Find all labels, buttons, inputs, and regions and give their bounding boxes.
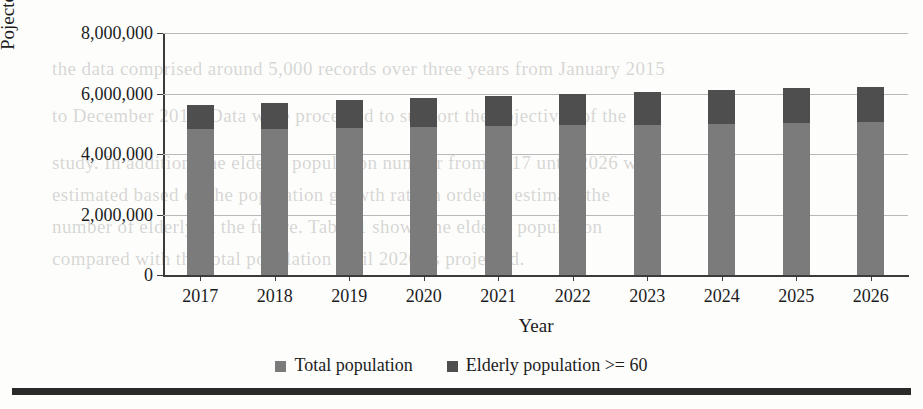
legend-label: Total population (294, 355, 412, 376)
bar-segment-elderly-population[interactable] (261, 103, 288, 129)
bar-slot: 2020 (387, 33, 462, 275)
x-axis-tick-label: 2023 (629, 286, 665, 307)
plot-area: 02,000,0004,000,0006,000,0008,000,000 20… (163, 33, 908, 275)
y-axis-tick-label: 6,000,000 (81, 83, 153, 104)
legend-swatch-icon (447, 361, 458, 372)
bar-segment-total-population[interactable] (783, 123, 810, 275)
bar-slot: 2019 (312, 33, 387, 275)
x-axis-tick-label: 2026 (853, 286, 889, 307)
x-axis-tick (647, 275, 648, 281)
stacked-bar-chart: Pojected population 02,000,0004,000,0006… (0, 0, 923, 409)
bar-segment-elderly-population[interactable] (857, 87, 884, 123)
x-axis-tick (200, 275, 201, 281)
stacked-bar[interactable] (634, 92, 661, 275)
y-axis-tick (157, 275, 163, 276)
x-axis-tick (796, 275, 797, 281)
y-axis-tick-label: 4,000,000 (81, 144, 153, 165)
x-axis-tick (349, 275, 350, 281)
stacked-bar[interactable] (410, 98, 437, 275)
bar-segment-total-population[interactable] (187, 129, 214, 275)
y-axis-tick-label: 8,000,000 (81, 23, 153, 44)
stacked-bar[interactable] (559, 94, 586, 275)
stacked-bar[interactable] (857, 87, 884, 275)
bar-slot: 2018 (238, 33, 313, 275)
bar-group: 2017201820192020202120222023202420252026 (163, 33, 908, 275)
bar-segment-total-population[interactable] (261, 129, 288, 275)
bar-segment-elderly-population[interactable] (634, 92, 661, 125)
bar-segment-total-population[interactable] (485, 126, 512, 275)
x-axis-tick (424, 275, 425, 281)
x-axis-tick-label: 2018 (257, 286, 293, 307)
x-axis-tick (498, 275, 499, 281)
bar-segment-elderly-population[interactable] (485, 96, 512, 126)
stacked-bar[interactable] (187, 105, 214, 275)
y-axis-tick-label: 0 (144, 265, 153, 286)
x-axis-tick-label: 2017 (182, 286, 218, 307)
x-axis-tick-label: 2021 (480, 286, 516, 307)
bar-slot: 2017 (163, 33, 238, 275)
bar-segment-total-population[interactable] (559, 125, 586, 275)
chart-legend: Total populationElderly population >= 60 (0, 355, 923, 376)
bar-segment-total-population[interactable] (634, 125, 661, 275)
bar-slot: 2021 (461, 33, 536, 275)
x-axis-tick-label: 2025 (778, 286, 814, 307)
y-axis-title: Pojected population (0, 0, 19, 50)
bar-segment-elderly-population[interactable] (708, 90, 735, 124)
bar-slot: 2023 (610, 33, 685, 275)
x-axis-tick (871, 275, 872, 281)
legend-item[interactable]: Elderly population >= 60 (447, 355, 648, 376)
x-axis-tick-label: 2019 (331, 286, 367, 307)
x-axis-tick (722, 275, 723, 281)
bar-slot: 2026 (834, 33, 909, 275)
bar-segment-elderly-population[interactable] (783, 88, 810, 123)
stacked-bar[interactable] (336, 100, 363, 275)
stacked-bar[interactable] (485, 96, 512, 275)
x-axis-tick (573, 275, 574, 281)
bar-segment-total-population[interactable] (857, 122, 884, 275)
x-axis-tick-label: 2020 (406, 286, 442, 307)
stacked-bar[interactable] (261, 103, 288, 275)
bar-segment-elderly-population[interactable] (559, 94, 586, 126)
stacked-bar[interactable] (783, 88, 810, 275)
bar-segment-total-population[interactable] (708, 124, 735, 275)
legend-label: Elderly population >= 60 (466, 355, 648, 376)
stacked-bar[interactable] (708, 90, 735, 275)
bar-segment-elderly-population[interactable] (336, 100, 363, 128)
x-axis-tick-label: 2024 (704, 286, 740, 307)
bar-slot: 2022 (536, 33, 611, 275)
y-axis-tick-label: 2,000,000 (81, 204, 153, 225)
bar-slot: 2024 (685, 33, 760, 275)
bar-segment-total-population[interactable] (336, 128, 363, 275)
bottom-rule (12, 388, 911, 395)
x-axis-tick-label: 2022 (555, 286, 591, 307)
legend-item[interactable]: Total population (275, 355, 412, 376)
bar-segment-elderly-population[interactable] (187, 105, 214, 129)
chart-page: the data comprised around 5,000 records … (0, 0, 923, 409)
x-axis-tick (275, 275, 276, 281)
x-axis-title: Year (163, 315, 909, 337)
legend-swatch-icon (275, 361, 286, 372)
bar-slot: 2025 (759, 33, 834, 275)
bar-segment-elderly-population[interactable] (410, 98, 437, 127)
bar-segment-total-population[interactable] (410, 127, 437, 275)
